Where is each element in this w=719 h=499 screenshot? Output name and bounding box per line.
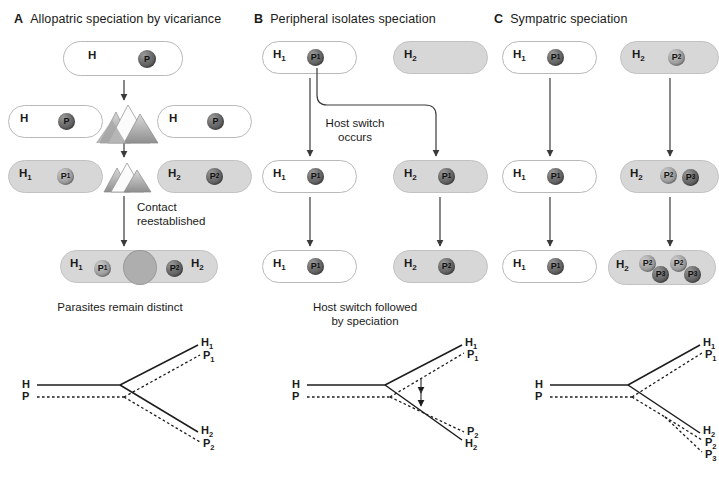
tree-a [37,345,200,442]
tree-a-tip-p1: P1 [203,350,215,364]
tree-b-root-parasite: P [292,391,299,402]
tree-c-tip-p1: P1 [705,349,717,363]
tree-a-tip-p2: P2 [203,438,215,452]
tree-a-root-host: H [22,379,30,390]
panel-sympatric: CSympatric speciation H1 P1 H2 P2 H1 P1 … [480,0,719,499]
tree-b-root-host: H [292,379,300,390]
tree-b [307,345,464,440]
tree-a-root-parasite: P [22,391,29,402]
panel-allopatric: AAllopatric speciation by vicariance H P… [0,0,240,499]
tree-c [550,345,702,452]
panel-c-graphics [480,0,719,499]
tree-b-tip-p1: P1 [467,349,479,363]
mountain-range-icon-2 [104,163,151,192]
mountain-range-icon-1 [96,105,158,143]
panel-peripheral: BPeripheral isolates speciation H1 P1 H2… [240,0,480,499]
tree-c-tip-p3: P3 [705,449,717,463]
tree-c-root-parasite: P [535,391,542,402]
tree-c-root-host: H [535,379,543,390]
tree-b-tip-h2: H2 [465,438,477,452]
panel-b-graphics [240,0,480,499]
